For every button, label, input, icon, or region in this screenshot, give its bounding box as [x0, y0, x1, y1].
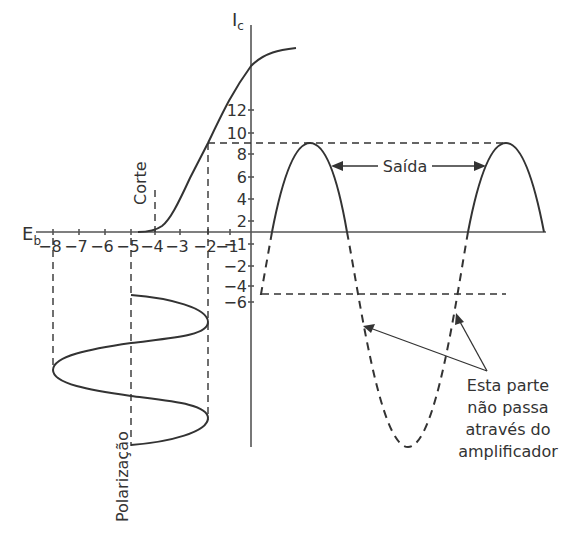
- x-tick-label: −6: [90, 237, 114, 256]
- x-tick-label: −8: [38, 237, 62, 256]
- note-arrow-1: [370, 328, 487, 371]
- y-tick-label: 2: [237, 212, 247, 231]
- note-arrowhead-2: [455, 313, 464, 325]
- note-line: Esta parte: [467, 376, 549, 395]
- transfer-characteristic-diagram: Eb Ic −8−7−6−5−4−3−2−1 12108642−1−2−4−6 …: [0, 0, 579, 534]
- note-line: através do: [465, 420, 550, 439]
- x-tick-label: −7: [64, 237, 88, 256]
- output-label: Saída: [383, 157, 427, 176]
- y-tick-label: −1: [223, 235, 247, 254]
- x-tick-label: −2: [193, 237, 217, 256]
- output-arrowhead-left: [331, 161, 343, 171]
- y-axis-ticks: 12108642−1−2−4−6: [223, 101, 254, 312]
- y-tick-label: 8: [237, 145, 247, 164]
- cutoff-label: Corte: [131, 161, 150, 205]
- x-axis-ticks: −8−7−6−5−4−3−2−1: [38, 229, 239, 256]
- x-tick-label: −5: [116, 237, 140, 256]
- y-tick-label: 10: [227, 124, 247, 143]
- y-tick-label: 12: [227, 101, 247, 120]
- x-tick-label: −3: [165, 237, 189, 256]
- cutoff-portion-trough: [347, 232, 468, 447]
- output-pulse-2: [468, 143, 544, 232]
- note-line: não passa: [467, 398, 548, 417]
- y-tick-label: −2: [223, 257, 247, 276]
- transfer-curve: [138, 48, 296, 232]
- output-pulse-1: [272, 143, 347, 232]
- y-axis-label: Ic: [232, 9, 244, 33]
- note-text: Esta parte não passa através do amplific…: [458, 376, 558, 461]
- bias-label: Polarização: [113, 431, 132, 522]
- y-tick-label: −6: [223, 293, 247, 312]
- note-arrow-2: [459, 320, 487, 371]
- cutoff-portion-left: [261, 232, 272, 294]
- x-tick-label: −4: [140, 237, 164, 256]
- y-tick-label: 6: [237, 168, 247, 187]
- y-tick-label: 4: [237, 190, 247, 209]
- note-line: amplificador: [458, 442, 558, 461]
